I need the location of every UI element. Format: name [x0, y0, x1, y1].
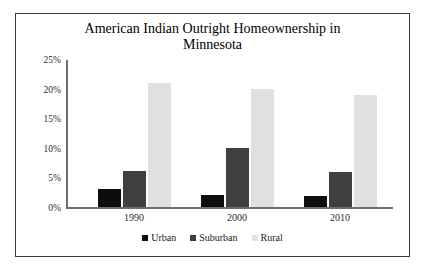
legend-label: Rural — [261, 232, 283, 243]
bar-rural[interactable] — [354, 95, 377, 207]
y-tick-label: 20% — [44, 85, 61, 95]
chart-legend: Urban Suburban Rural — [16, 232, 409, 243]
bar-group: 1990 — [84, 60, 184, 207]
plot-area: 25% 20% 15% 10% 5% 0% 1990 2000 — [66, 60, 393, 208]
bar-suburban[interactable] — [329, 172, 352, 206]
legend-item-rural[interactable]: Rural — [252, 232, 283, 243]
bar-group-bars — [84, 60, 184, 207]
y-tick-label: 5% — [48, 173, 61, 183]
chart-frame: American Indian Outright Homeownership i… — [15, 13, 410, 257]
bar-group: 2000 — [187, 60, 287, 207]
legend-swatch-icon — [252, 235, 258, 241]
bar-rural[interactable] — [148, 83, 171, 206]
y-axis-line — [66, 60, 68, 208]
chart-title-line-1: American Indian Outright Homeownership i… — [85, 21, 341, 36]
bar-rural[interactable] — [251, 89, 274, 207]
y-tick-label: 25% — [44, 55, 61, 65]
legend-item-suburban[interactable]: Suburban — [190, 232, 237, 243]
bar-urban[interactable] — [98, 189, 121, 207]
y-tick-label: 15% — [44, 114, 61, 124]
legend-swatch-icon — [142, 235, 148, 241]
legend-item-urban[interactable]: Urban — [142, 232, 176, 243]
y-tick-label: 10% — [44, 144, 61, 154]
chart-title-line-2: Minnesota — [183, 37, 242, 52]
bar-group: 2010 — [290, 60, 390, 207]
chart-title: American Indian Outright Homeownership i… — [16, 21, 409, 53]
bar-group-bars — [187, 60, 287, 207]
x-axis-line — [66, 207, 393, 209]
legend-label: Suburban — [199, 232, 237, 243]
bar-urban[interactable] — [304, 196, 327, 207]
bar-suburban[interactable] — [226, 148, 249, 207]
bar-urban[interactable] — [201, 195, 224, 207]
x-tick-label: 2000 — [187, 212, 287, 223]
legend-swatch-icon — [190, 235, 196, 241]
bar-suburban[interactable] — [123, 171, 146, 206]
legend-label: Urban — [151, 232, 176, 243]
y-tick-label: 0% — [48, 203, 61, 213]
x-tick-label: 2010 — [290, 212, 390, 223]
bar-group-bars — [290, 60, 390, 207]
x-tick-label: 1990 — [84, 212, 184, 223]
